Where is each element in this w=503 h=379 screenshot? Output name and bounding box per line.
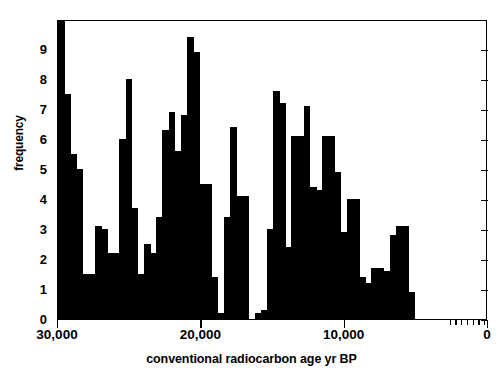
x-minor-tick: [473, 320, 474, 325]
y-tick-label: 6: [40, 135, 47, 145]
right-axis-tick: [481, 290, 488, 291]
y-tick-label: 9: [40, 45, 47, 55]
right-axis-tick: [481, 140, 488, 141]
right-axis-tick: [481, 320, 488, 321]
y-tick-label: 5: [40, 165, 47, 175]
right-axis-tick: [481, 170, 488, 171]
y-tick-label: 8: [40, 75, 47, 85]
histogram-bar: [408, 292, 415, 319]
right-axis-tick: [481, 110, 488, 111]
right-axis-tick: [481, 200, 488, 201]
right-axis-tick: [481, 260, 488, 261]
x-minor-tick: [450, 320, 451, 325]
right-axis-tick: [481, 230, 488, 231]
histogram-bar: [242, 196, 249, 319]
y-tick-label: 4: [40, 195, 47, 205]
right-axis-tick: [481, 80, 488, 81]
x-tick-label: 0: [483, 327, 491, 342]
x-axis-minor-ticks: [57, 320, 488, 326]
x-tick-label: 10,000: [323, 327, 364, 342]
x-tick-label: 30,000: [36, 327, 77, 342]
y-tick-label: 7: [40, 105, 47, 115]
x-minor-tick: [467, 320, 468, 325]
y-tick-label: 2: [40, 255, 47, 265]
histogram-bars: [58, 21, 486, 319]
histogram-figure: frequency 0123456789 30,00020,00010,0000…: [0, 0, 503, 379]
right-axis-tick: [481, 50, 488, 51]
x-minor-tick: [461, 320, 462, 325]
right-axis-ticks: [479, 20, 488, 321]
x-tick-label: 20,000: [180, 327, 221, 342]
y-axis-tick-labels: 0123456789: [0, 0, 57, 379]
y-tick-label: 1: [40, 285, 47, 295]
x-minor-tick: [455, 320, 456, 325]
y-tick-label: 0: [40, 315, 47, 325]
x-axis-tick-labels: 30,00020,00010,0000: [0, 327, 503, 347]
plot-area: [57, 20, 487, 320]
y-tick-label: 3: [40, 225, 47, 235]
x-axis-title: conventional radiocarbon age yr BP: [0, 352, 503, 366]
